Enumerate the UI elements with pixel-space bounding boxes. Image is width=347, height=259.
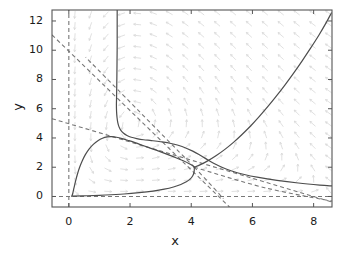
x-tick-label: 0 xyxy=(54,215,84,228)
nullcline-shallow-descending xyxy=(52,119,332,202)
x-tick-label: 6 xyxy=(237,215,267,228)
trajectory-upper-descent xyxy=(116,10,332,186)
trajectory-lower-left-rise xyxy=(72,137,194,197)
trajectory-lower-axis-to-saddle xyxy=(72,167,194,196)
y-tick-label: 12 xyxy=(0,14,43,27)
x-tick-label: 2 xyxy=(115,215,145,228)
y-tick-label: 0 xyxy=(0,189,43,202)
y-axis-title: y xyxy=(7,96,29,118)
x-axis-title: x xyxy=(155,233,195,248)
x-tick-label: 8 xyxy=(299,215,329,228)
y-tick-label: 8 xyxy=(0,72,43,85)
trajectory-curves xyxy=(72,10,332,196)
plot-canvas xyxy=(0,0,347,259)
y-tick-label: 2 xyxy=(0,160,43,173)
phase-portrait-figure: 024681012 02468 y x xyxy=(0,0,347,259)
x-tick-label: 4 xyxy=(176,215,206,228)
y-tick-label: 10 xyxy=(0,43,43,56)
y-tick-label: 4 xyxy=(0,131,43,144)
vector-field-arrows xyxy=(73,10,331,195)
separatrix-upper-left xyxy=(86,57,195,167)
